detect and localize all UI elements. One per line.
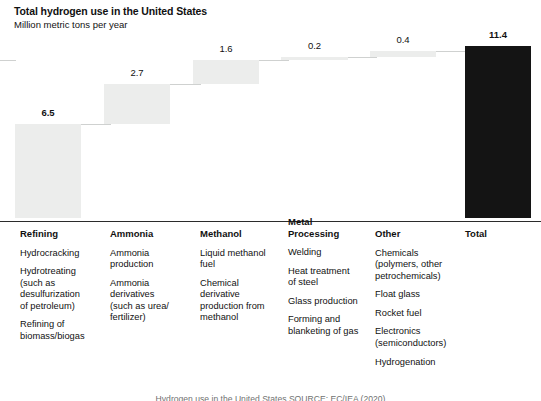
list-item: Ammonia production: [110, 248, 196, 271]
list-item: Chemical derivative production from meth…: [200, 278, 288, 324]
list-item: Chemicals (polymers, other petrochemical…: [375, 248, 465, 283]
category-column-other: Other Chemicals (polymers, other petroch…: [375, 228, 465, 375]
category-header-methanol: Methanol: [200, 228, 288, 240]
bar-value-metal-processing: 0.2: [281, 40, 348, 51]
category-items-ammonia: Ammonia production Ammonia derivatives (…: [110, 248, 196, 325]
list-item: Float glass: [375, 289, 465, 301]
connector-line: [436, 51, 466, 52]
bar-refining: [15, 124, 81, 218]
category-items-refining: Hydrocracking Hydrotreating (such as des…: [20, 248, 106, 343]
list-item: Refining of biomass/biogas: [20, 319, 106, 342]
list-item: Welding: [288, 247, 374, 259]
category-header-metal-processing: Metal Processing: [288, 216, 374, 239]
bar-value-total: 11.4: [465, 29, 531, 40]
bar-value-refining: 6.5: [15, 107, 81, 118]
category-table: Refining Hydrocracking Hydrotreating (su…: [0, 228, 541, 393]
connector-line: [348, 57, 377, 58]
bar-methanol: [193, 60, 259, 84]
category-column-metal-processing: Metal Processing Welding Heat treatment …: [288, 216, 374, 345]
category-column-ammonia: Ammonia Ammonia production Ammonia deriv…: [110, 228, 196, 331]
list-item: Heat treatment of steel: [288, 266, 374, 289]
connector-line: [170, 84, 201, 85]
category-items-other: Chemicals (polymers, other petrochemical…: [375, 248, 465, 369]
chart-divider: [0, 221, 541, 222]
category-column-refining: Refining Hydrocracking Hydrotreating (su…: [20, 228, 106, 350]
waterfall-chart: 6.5 2.7 1.6 0.2 0.4 11.4: [0, 0, 541, 222]
list-item: Hydrogenation: [375, 357, 465, 369]
connector-line: [81, 124, 111, 125]
list-item: Hydrocracking: [20, 248, 106, 260]
footer: Hydrogen use in the United States SOURCE…: [0, 394, 541, 401]
list-item: Hydrotreating (such as desulfurization o…: [20, 266, 106, 312]
bar-total: [465, 46, 531, 218]
category-items-methanol: Liquid methanol fuel Chemical derivative…: [200, 248, 288, 325]
footer-source-text: Hydrogen use in the United States SOURCE…: [0, 394, 541, 401]
bar-ammonia: [104, 84, 170, 124]
list-item: Glass production: [288, 296, 374, 308]
baseline-connector: [0, 60, 16, 61]
connector-line: [259, 60, 289, 61]
bar-value-methanol: 1.6: [193, 43, 259, 54]
category-items-metal-processing: Welding Heat treatment of steel Glass pr…: [288, 247, 374, 338]
category-header-other: Other: [375, 228, 465, 240]
bar-value-other: 0.4: [370, 34, 436, 45]
category-header-total: Total: [465, 228, 535, 240]
category-column-total: Total: [465, 228, 535, 248]
category-column-methanol: Methanol Liquid methanol fuel Chemical d…: [200, 228, 288, 331]
list-item: Rocket fuel: [375, 308, 465, 320]
list-item: Liquid methanol fuel: [200, 248, 288, 271]
list-item: Electronics (semiconductors): [375, 326, 465, 349]
bar-other: [370, 51, 436, 57]
bar-metal-processing: [281, 57, 348, 60]
list-item: Forming and blanketing of gas: [288, 314, 374, 337]
category-header-refining: Refining: [20, 228, 106, 240]
category-header-ammonia: Ammonia: [110, 228, 196, 240]
bar-value-ammonia: 2.7: [104, 67, 170, 78]
list-item: Ammonia derivatives (such as urea/ ferti…: [110, 278, 196, 324]
